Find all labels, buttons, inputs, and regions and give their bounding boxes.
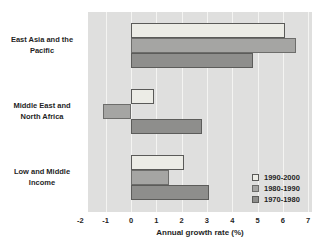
category-label-line: Middle East and xyxy=(0,101,84,112)
x-tick-label: 4 xyxy=(230,216,234,226)
x-tick-label: 7 xyxy=(306,216,310,226)
legend-swatch-1970-1980 xyxy=(252,196,259,203)
category-label: Low and MiddleIncome xyxy=(0,167,84,188)
bar-1980-1990 xyxy=(131,170,169,185)
x-tick-label: 3 xyxy=(205,216,209,226)
category-label-line: Pacific xyxy=(0,46,84,57)
legend-label: 1970-1980 xyxy=(264,194,300,205)
x-tick-label: 2 xyxy=(180,216,184,226)
category-label-line: North Africa xyxy=(0,112,84,123)
category-label: East Asia and thePacific xyxy=(0,35,84,56)
x-tick-label: -1 xyxy=(102,216,109,226)
growth-rate-chart: East Asia and thePacificMiddle East andN… xyxy=(0,0,330,251)
bar-1990-2000 xyxy=(131,23,285,38)
bar-1970-1980 xyxy=(131,53,252,68)
category-label: Middle East andNorth Africa xyxy=(0,101,84,122)
bar-1980-1990 xyxy=(131,38,296,53)
x-tick-label: 0 xyxy=(129,216,133,226)
x-tick-label: 1 xyxy=(154,216,158,226)
bar-1970-1980 xyxy=(131,119,202,134)
legend-item: 1990-2000 xyxy=(252,172,300,183)
bar-1990-2000 xyxy=(131,89,154,104)
bar-1990-2000 xyxy=(131,155,184,170)
legend-item: 1970-1980 xyxy=(252,194,300,205)
bar-1980-1990 xyxy=(103,104,131,119)
x-tick-label: -2 xyxy=(77,216,84,226)
x-axis-title: Annual growth rate (%) xyxy=(120,228,280,237)
category-label-line: Income xyxy=(0,178,84,189)
legend-swatch-1980-1990 xyxy=(252,185,259,192)
category-label-line: East Asia and the xyxy=(0,35,84,46)
category-label-line: Low and Middle xyxy=(0,167,84,178)
legend-swatch-1990-2000 xyxy=(252,174,259,181)
bar-1970-1980 xyxy=(131,185,209,200)
x-tick-label: 5 xyxy=(255,216,259,226)
legend-label: 1990-2000 xyxy=(264,172,300,183)
x-tick-label: 6 xyxy=(281,216,285,226)
legend-item: 1980-1990 xyxy=(252,183,300,194)
gridline xyxy=(308,12,309,212)
legend: 1990-20001980-19901970-1980 xyxy=(252,172,300,205)
legend-label: 1980-1990 xyxy=(264,183,300,194)
